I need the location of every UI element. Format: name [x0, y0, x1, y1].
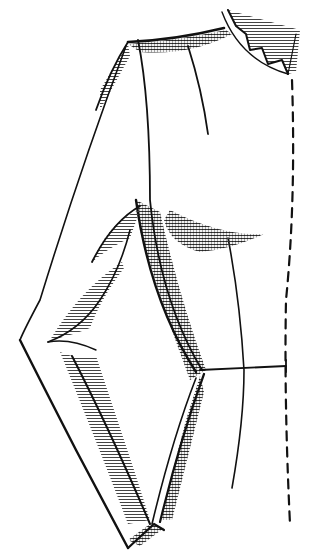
shoulder: [96, 28, 232, 110]
center-front: [286, 80, 294, 524]
collar: [222, 10, 300, 74]
garment-illustration: [0, 0, 322, 554]
